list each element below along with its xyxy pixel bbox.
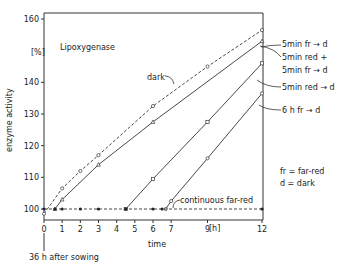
dark-label: dark	[147, 73, 165, 82]
label-5min-fr-d-2: 5min fr → d	[282, 66, 328, 75]
y-tick-label: 120	[24, 142, 39, 151]
lipoxygenase-chart: 100110120130140160 01234567912 Lipoxygen…	[0, 0, 346, 271]
label-5min-red-plus: 5min red +	[282, 53, 327, 62]
note-dark: d = dark	[280, 179, 315, 188]
x-tick-label: 7	[169, 225, 174, 234]
chart-title: Lipoxygenase	[60, 43, 115, 52]
label-5min-fr-d: 5min fr → d	[282, 40, 328, 49]
y-tick-label: 160	[24, 15, 39, 24]
y-axis-label: enzyme activity	[5, 88, 14, 152]
continuous-far-red-label: continuous far-red	[180, 196, 253, 205]
y-tick-label: 110	[24, 173, 39, 182]
y-axis-ticks: 100110120130140160	[24, 15, 44, 214]
data-series	[42, 28, 263, 215]
x-tick-label: 2	[78, 225, 83, 234]
origin-note: 36 h after sowing	[29, 253, 99, 262]
y-tick-label: 140	[24, 78, 39, 87]
y-tick-label: 130	[24, 110, 39, 119]
x-tick-label: 5	[132, 225, 137, 234]
series-line	[166, 93, 262, 209]
x-tick-label: 12	[257, 225, 267, 234]
label-6h-fr-d: 6 h fr → d	[282, 106, 320, 115]
x-tick-label: 1	[60, 225, 65, 234]
y-unit-label: [%]	[31, 48, 45, 57]
y-tick-label: 100	[24, 205, 39, 214]
right-series-labels: 5min fr → d 5min red + 5min fr → d 5min …	[257, 40, 335, 115]
x-unit-label: [h]	[209, 224, 220, 233]
x-tick-label: 6	[150, 225, 155, 234]
series-line	[55, 41, 262, 209]
x-tick-label: 3	[96, 225, 101, 234]
x-axis-label: time	[148, 240, 166, 249]
label-5min-red-d: 5min red → d	[282, 83, 335, 92]
x-tick-label: 4	[114, 225, 119, 234]
series-line	[126, 63, 262, 209]
x-tick-label: 0	[41, 225, 46, 234]
note-far-red: fr = far-red	[280, 167, 324, 176]
x-axis-ticks: 01234567912	[41, 220, 267, 234]
